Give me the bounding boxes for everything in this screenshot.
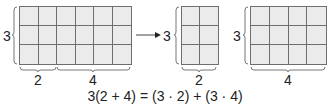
combined-col-label-2: 2 [34,73,42,87]
combined-col-label-4: 4 [89,73,97,87]
brace-icon [12,7,17,64]
right-part-col-label: 4 [284,73,292,87]
distributive-equation: 3(2 + 4) = (3 · 2) + (3 · 4) [0,88,330,104]
left-part-row-label: 3 [163,29,171,43]
right-part-rectangle-grid [250,6,327,65]
combined-row-label: 3 [3,29,11,43]
combined-rectangle-grid [19,6,132,65]
left-part-col-label: 2 [195,73,203,87]
right-part-row-label: 3 [233,29,241,43]
left-part-rectangle-grid [181,6,219,65]
